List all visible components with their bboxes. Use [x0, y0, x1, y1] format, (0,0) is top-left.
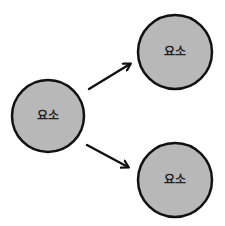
edge-source-to-top [89, 64, 130, 89]
diagram-canvas: 요소 요소 요소 [0, 0, 225, 226]
node-label: 요소 [164, 173, 186, 187]
arrow-icon [89, 64, 130, 89]
node-label: 요소 [37, 109, 59, 123]
node-target-top: 요소 [138, 15, 212, 89]
edge-source-to-bottom [87, 145, 128, 167]
node-source: 요소 [12, 80, 84, 152]
node-target-bottom: 요소 [138, 143, 212, 217]
arrow-icon [87, 145, 128, 167]
node-label: 요소 [164, 45, 186, 59]
